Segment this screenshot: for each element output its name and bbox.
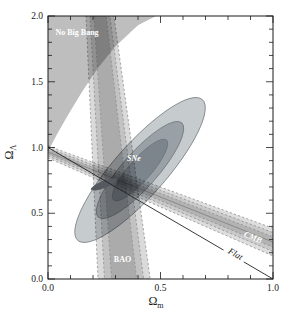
y-axis-title: ΩΛ xyxy=(2,144,18,159)
x-axis-title: Ωm xyxy=(148,294,164,310)
no-big-bang-label: No Big Bang xyxy=(55,28,98,37)
y-tick-label-3: 1.5 xyxy=(31,77,43,87)
y-tick-label-2: 1.0 xyxy=(31,143,43,153)
x-tick-label-2: 1.0 xyxy=(267,283,279,293)
flat-label: Flat xyxy=(226,245,245,262)
x-tick-label-0: 0.0 xyxy=(42,283,54,293)
y-tick-label-1: 0.5 xyxy=(31,208,43,218)
plot-area xyxy=(48,16,273,279)
bao-label: BAO xyxy=(114,255,131,264)
y-tick-label-0: 0.0 xyxy=(31,274,43,284)
flat-line-segment-2 xyxy=(244,262,273,279)
omega-constraint-figure: 0.00.51.00.00.51.01.52.0ΩmΩΛNo Big BangS… xyxy=(0,0,295,321)
constraint-plot-svg: 0.00.51.00.00.51.01.52.0ΩmΩΛNo Big BangS… xyxy=(0,0,295,321)
x-tick-label-1: 0.5 xyxy=(155,283,167,293)
y-tick-label-4: 2.0 xyxy=(31,11,43,21)
sne-label: SNe xyxy=(127,154,141,163)
